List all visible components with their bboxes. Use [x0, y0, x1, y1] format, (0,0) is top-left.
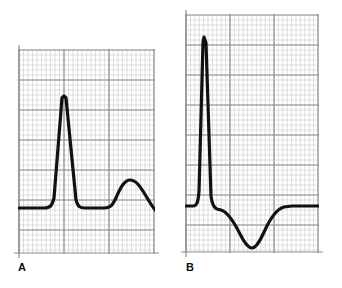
panel-b-plot	[0, 0, 342, 288]
panel-b-label: B	[186, 262, 194, 273]
ecg-figure: A B	[0, 0, 342, 288]
